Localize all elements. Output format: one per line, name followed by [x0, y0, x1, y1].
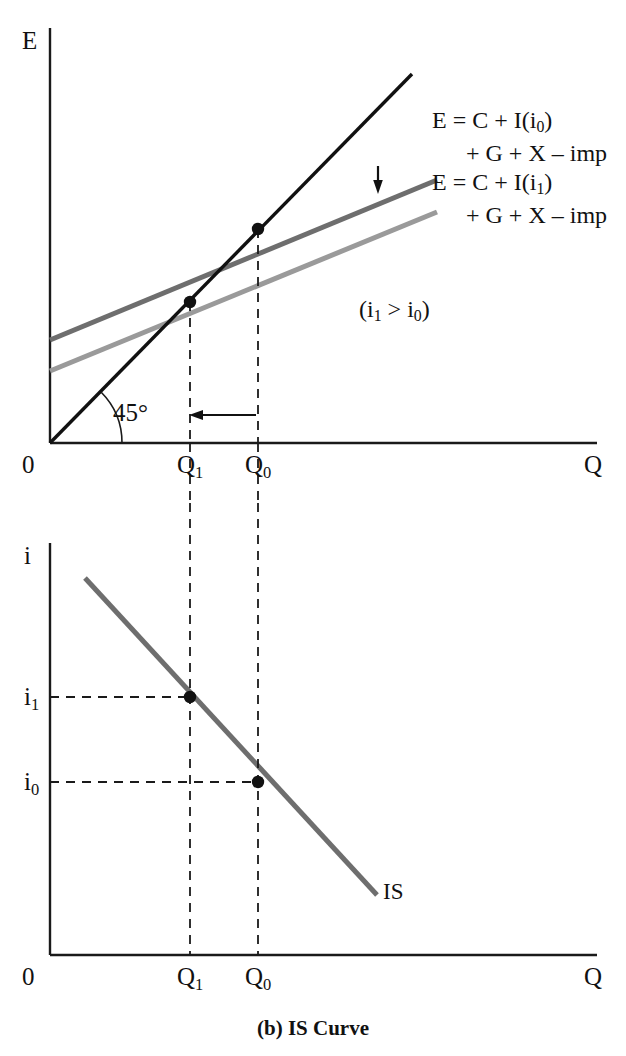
bottom-origin-label: 0	[22, 964, 35, 989]
bottom-x-tick-q0-sub: 0	[263, 975, 271, 994]
expenditure-label-i1: E = C + I(i1) + G + X – imp	[432, 167, 607, 232]
shift-down-arrow-icon	[373, 166, 383, 194]
is-curve-label: IS	[383, 880, 403, 903]
bottom-panel	[50, 503, 597, 955]
bottom-x-tick-q0: Q0	[245, 964, 271, 993]
bottom-x-axis-label: Q	[584, 964, 602, 989]
bottom-y-tick-i1-main: i	[24, 683, 31, 710]
expenditure-label-i1-line1: E = C + I(i1)	[432, 169, 552, 195]
is-curve-line	[85, 578, 377, 895]
bottom-y-tick-i0-main: i	[24, 768, 31, 795]
equilibrium-point-q1-top	[184, 296, 196, 308]
bottom-y-tick-i0-sub: 0	[31, 780, 39, 799]
top-panel	[50, 28, 597, 443]
bottom-y-tick-i1-sub: 1	[31, 695, 39, 714]
figure-caption: (b) IS Curve	[0, 1016, 626, 1041]
top-x-tick-q1-sub: 1	[195, 463, 203, 482]
expenditure-label-i1-post: )	[544, 169, 552, 195]
output-left-arrow-icon	[189, 410, 256, 420]
expenditure-label-i0: E = C + I(i0) + G + X – imp	[432, 105, 607, 170]
bottom-x-tick-q0-main: Q	[245, 963, 263, 990]
expenditure-label-i1-line2: + G + X – imp	[432, 200, 607, 232]
bottom-y-axis-label: i	[24, 543, 31, 568]
top-x-tick-q0-sub: 0	[263, 463, 271, 482]
top-origin-label: 0	[22, 452, 35, 477]
expenditure-label-i0-pre: E = C + I(i	[432, 107, 536, 133]
bottom-x-tick-q1: Q1	[177, 964, 203, 993]
bottom-x-tick-q1-sub: 1	[195, 975, 203, 994]
forty-five-degree-line	[50, 74, 412, 443]
condition-mid: > i	[382, 296, 414, 322]
bottom-y-tick-i0: i0	[24, 769, 39, 798]
expenditure-label-i0-line1: E = C + I(i0)	[432, 107, 552, 133]
interest-rate-condition-note: (i1 > i0)	[359, 297, 430, 324]
top-x-axis-label: Q	[584, 452, 602, 477]
top-x-tick-q0: Q0	[245, 452, 271, 481]
top-x-tick-q1-main: Q	[177, 451, 195, 478]
top-x-tick-q0-main: Q	[245, 451, 263, 478]
expenditure-curve-i1	[50, 212, 437, 371]
condition-pre: (i	[359, 296, 374, 322]
equilibrium-point-q0-bottom	[252, 776, 264, 788]
condition-post: )	[422, 296, 430, 322]
top-y-axis-label: E	[22, 28, 37, 53]
bottom-x-tick-q1-main: Q	[177, 963, 195, 990]
condition-sub1: 1	[374, 307, 382, 324]
top-x-tick-q1: Q1	[177, 452, 203, 481]
expenditure-label-i0-post: )	[544, 107, 552, 133]
equilibrium-point-q0-top	[252, 223, 264, 235]
equilibrium-point-q1-bottom	[184, 691, 196, 703]
expenditure-label-i1-pre: E = C + I(i	[432, 169, 536, 195]
condition-sub2: 0	[414, 307, 422, 324]
angle-label: 45°	[113, 400, 148, 425]
bottom-y-tick-i1: i1	[24, 684, 39, 713]
expenditure-label-i0-line2: + G + X – imp	[432, 138, 607, 170]
